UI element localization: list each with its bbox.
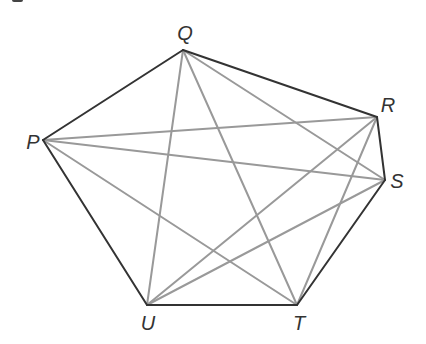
diagonal-edges [43, 50, 385, 305]
outline-edges [43, 50, 385, 305]
complete-graph-diagram: Q R S T U P [0, 0, 426, 344]
diagonal-edge-ru [147, 117, 377, 305]
diagonal-edge-qt [183, 50, 297, 305]
diagonal-edge-rt [297, 117, 377, 305]
diagonal-edge-su [147, 180, 385, 305]
outline-edge-up [43, 140, 147, 305]
diagonal-edge-pr [43, 117, 377, 140]
diagonal-edge-qu [147, 50, 183, 305]
outline-edge-qr [183, 50, 377, 117]
vertex-label-p: P [26, 131, 40, 153]
vertex-labels: Q R S T U P [26, 22, 404, 334]
outline-edge-pq [43, 50, 183, 140]
vertex-label-t: T [293, 312, 307, 334]
vertex-label-u: U [141, 312, 156, 334]
outline-edge-rs [377, 117, 385, 180]
vertex-label-r: R [381, 94, 395, 116]
vertex-label-s: S [390, 170, 404, 192]
vertex-label-q: Q [177, 22, 193, 44]
outline-edge-st [297, 180, 385, 305]
